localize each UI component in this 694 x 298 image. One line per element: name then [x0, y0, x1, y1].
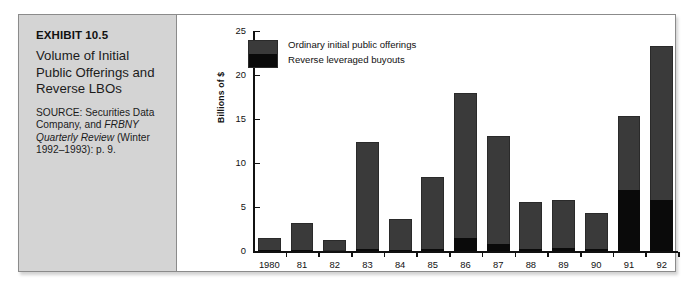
x-tick-mark [515, 252, 517, 257]
legend-label-reverse-lbo: Reverse leveraged buyouts [288, 54, 405, 65]
exhibit-frame: EXHIBIT 10.5 Volume of Initial Public Of… [18, 14, 676, 272]
bar-92 [650, 46, 673, 251]
bar-segment-ordinary-ipo [487, 136, 510, 251]
x-tick-mark [678, 252, 680, 257]
exhibit-title: Volume of Initial Public Offerings and R… [36, 48, 163, 98]
caption-panel: EXHIBIT 10.5 Volume of Initial Public Of… [19, 15, 177, 271]
x-tick-mark [613, 252, 615, 257]
bar-segment-reverse-lbo [356, 249, 379, 251]
bar-segment-reverse-lbo [585, 249, 608, 251]
bar-86 [454, 93, 477, 251]
bar-89 [552, 200, 575, 251]
bar-segment-ordinary-ipo [356, 142, 379, 251]
x-tick-mark [384, 252, 386, 257]
y-tick-mark [254, 31, 260, 32]
bar-84 [389, 219, 412, 251]
x-tick-mark [286, 252, 288, 257]
y-tick-label: 5 [222, 201, 246, 212]
bar-segment-reverse-lbo [389, 250, 412, 251]
x-tick-mark [645, 252, 647, 257]
bar-81 [291, 223, 314, 251]
y-tick-label: 0 [222, 245, 246, 256]
bar-segment-ordinary-ipo [291, 223, 314, 251]
bar-segment-ordinary-ipo [585, 213, 608, 251]
x-tick-mark [449, 252, 451, 257]
exhibit-number: EXHIBIT 10.5 [36, 29, 163, 41]
bar-segment-ordinary-ipo [258, 238, 281, 251]
y-tick-label: 15 [222, 113, 246, 124]
bar-segment-reverse-lbo [519, 249, 542, 251]
bar-1980 [258, 238, 281, 251]
bar-87 [487, 136, 510, 251]
y-tick-label: 10 [222, 157, 246, 168]
bar-91 [618, 116, 641, 251]
legend-swatch-lower [249, 54, 277, 67]
y-tick-mark [254, 163, 260, 164]
y-tick-mark [254, 75, 260, 76]
bar-82 [323, 240, 346, 251]
x-tick-mark [547, 252, 549, 257]
bar-segment-ordinary-ipo [323, 240, 346, 251]
bar-segment-reverse-lbo [454, 238, 477, 251]
bar-83 [356, 142, 379, 251]
bar-90 [585, 213, 608, 251]
x-tick-label: 92 [642, 259, 682, 270]
bar-segment-ordinary-ipo [552, 200, 575, 251]
y-tick-label: 20 [222, 69, 246, 80]
bar-segment-ordinary-ipo [421, 177, 444, 251]
x-tick-mark [580, 252, 582, 257]
bar-segment-ordinary-ipo [454, 93, 477, 251]
exhibit-source-note: SOURCE: Securities Data Company, and FRB… [36, 107, 163, 157]
chart-plot-area: Billions of $ 0510152025 198081828384858… [178, 15, 675, 271]
x-tick-mark [351, 252, 353, 257]
bar-segment-reverse-lbo [291, 250, 314, 251]
bar-segment-reverse-lbo [421, 249, 444, 251]
bar-segment-reverse-lbo [650, 200, 673, 251]
bar-segment-reverse-lbo [487, 244, 510, 251]
x-tick-mark [482, 252, 484, 257]
bar-88 [519, 202, 542, 251]
legend-swatch-icon [248, 40, 278, 68]
bar-segment-ordinary-ipo [519, 202, 542, 251]
bar-segment-reverse-lbo [618, 190, 641, 251]
bar-segment-ordinary-ipo [389, 219, 412, 251]
x-tick-mark [416, 252, 418, 257]
legend-label-ordinary-ipo: Ordinary initial public offerings [288, 39, 416, 50]
bar-85 [421, 177, 444, 251]
bar-segment-reverse-lbo [552, 248, 575, 251]
x-axis-line [253, 251, 678, 253]
bar-segment-reverse-lbo [258, 250, 281, 251]
x-tick-mark [318, 252, 320, 257]
y-tick-label: 25 [222, 25, 246, 36]
y-tick-mark [254, 207, 260, 208]
y-tick-mark [254, 119, 260, 120]
